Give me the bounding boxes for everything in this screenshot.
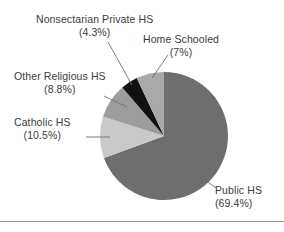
pie-label-percent: (8.8%) [14,83,106,96]
pie-label-percent: (7%) [143,46,219,59]
pie-label-nonsectarian-private-hs: Nonsectarian Private HS (4.3%) [36,13,153,38]
pie-label-text: Catholic HS [14,116,71,128]
pie-label-text: Public HS [215,184,262,196]
pie-label-catholic-hs: Catholic HS (10.5%) [14,116,71,141]
pie-chart-figure: Nonsectarian Private HS (4.3%) Home Scho… [0,0,284,232]
pie-label-text: Nonsectarian Private HS [36,13,153,25]
pie-label-text: Home Schooled [143,33,219,45]
leader-line-nonsectarian-private-hs [108,42,132,85]
pie-label-public-hs: Public HS (69.4%) [215,184,262,209]
pie-label-text: Other Religious HS [14,70,106,82]
pie-label-percent: (10.5%) [14,129,71,142]
pie-slices [100,72,228,200]
pie-label-percent: (4.3%) [36,26,153,39]
pie-label-home-schooled: Home Schooled (7%) [143,33,219,58]
pie-label-other-religious-hs: Other Religious HS (8.8%) [14,70,106,95]
pie-label-percent: (69.4%) [215,197,262,210]
figure-bottom-rule [0,221,284,222]
